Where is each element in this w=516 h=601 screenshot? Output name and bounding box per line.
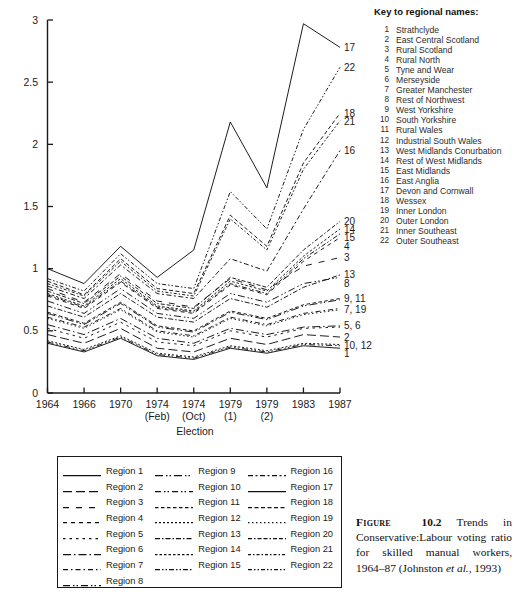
x-tick-label-year: 1987 xyxy=(316,398,364,410)
key-item-name: Wessex xyxy=(396,196,426,206)
legend-line-swatch xyxy=(247,545,287,554)
legend-line-swatch xyxy=(154,560,194,569)
chart-area: 00.511.522.53 1964196619701974(Feb)1974(… xyxy=(0,0,372,450)
key-item: 19Inner London xyxy=(372,206,516,216)
legend-item[interactable]: Region 21 xyxy=(247,541,339,557)
legend-line-swatch xyxy=(247,560,287,569)
key-item: 20Outer London xyxy=(372,216,516,226)
series-line xyxy=(48,322,341,346)
legend-item[interactable]: Region 2 xyxy=(62,479,154,495)
legend-item[interactable]: Region 17 xyxy=(247,479,339,495)
figure-10-2: 00.511.522.53 1964196619701974(Feb)1974(… xyxy=(0,0,516,601)
key-item-number: 10 xyxy=(372,115,396,125)
series-end-label: 1 xyxy=(344,348,350,359)
y-axis-tick-label: 0 xyxy=(4,387,38,399)
legend-line-swatch xyxy=(62,513,102,522)
key-panel-title: Key to regional names: xyxy=(374,6,516,17)
key-item: 2East Central Scotland xyxy=(372,35,516,45)
key-item: 5Tyne and Wear xyxy=(372,65,516,75)
key-item-name: Merseyside xyxy=(396,75,440,85)
key-item-name: East Anglia xyxy=(396,176,439,186)
key-item: 18Wessex xyxy=(372,196,516,206)
legend-item[interactable]: Region 7 xyxy=(62,557,154,573)
legend-item-label: Region 13 xyxy=(198,529,240,539)
legend-item-label: Region 7 xyxy=(106,560,143,570)
key-item-number: 15 xyxy=(372,166,396,176)
series-line xyxy=(48,338,341,359)
key-item-name: West Yorkshire xyxy=(396,105,453,115)
key-item: 16East Anglia xyxy=(372,176,516,186)
legend-item[interactable]: Region 11 xyxy=(154,494,246,510)
key-item-number: 4 xyxy=(372,55,396,65)
legend-item[interactable]: Region 20 xyxy=(247,526,339,542)
key-item-name: Industrial South Wales xyxy=(396,136,482,146)
legend-item[interactable]: Region 18 xyxy=(247,494,339,510)
series-line xyxy=(48,300,341,332)
key-item-number: 5 xyxy=(372,65,396,75)
key-item-number: 16 xyxy=(372,176,396,186)
legend-item[interactable]: Region 9 xyxy=(154,463,246,479)
y-axis-tick-label: 0.5 xyxy=(4,324,38,336)
series-end-label: 9, 11 xyxy=(344,293,366,304)
series-end-label: 17 xyxy=(344,42,355,53)
legend-item[interactable]: Region 1 xyxy=(62,463,154,479)
key-item-number: 13 xyxy=(372,146,396,156)
legend-item[interactable]: Region 5 xyxy=(62,526,154,542)
legend-column: Region 9Region 10Region 11Region 12Regio… xyxy=(154,463,246,589)
legend-line-swatch xyxy=(154,545,194,554)
legend-item[interactable]: Region 12 xyxy=(154,510,246,526)
legend-item-label: Region 21 xyxy=(291,544,333,554)
key-item-name: Outer Southeast xyxy=(396,236,459,246)
legend-item[interactable]: Region 6 xyxy=(62,541,154,557)
key-item: 6Merseyside xyxy=(372,75,516,85)
legend-item-label: Region 9 xyxy=(198,466,235,476)
legend-line-swatch xyxy=(62,466,102,475)
legend-line-swatch xyxy=(62,560,102,569)
key-item-name: West Midlands Conurbation xyxy=(396,146,501,156)
legend-item[interactable]: Region 14 xyxy=(154,541,246,557)
series-line xyxy=(48,328,341,352)
key-item-name: Rural Scotland xyxy=(396,45,452,55)
legend-item[interactable]: Region 16 xyxy=(247,463,339,479)
key-item-number: 8 xyxy=(372,95,396,105)
legend-column: Region 1Region 2Region 3Region 4Region 5… xyxy=(62,463,154,589)
key-item-number: 12 xyxy=(372,136,396,146)
key-item-number: 17 xyxy=(372,186,396,196)
legend-item[interactable]: Region 19 xyxy=(247,510,339,526)
legend-line-swatch xyxy=(62,482,102,491)
legend-item-label: Region 2 xyxy=(106,482,143,492)
key-item-number: 18 xyxy=(372,196,396,206)
legend-item[interactable]: Region 3 xyxy=(62,494,154,510)
legend-item[interactable]: Region 22 xyxy=(247,557,339,573)
legend-item[interactable]: Region 13 xyxy=(154,526,246,542)
x-axis-title: Election xyxy=(150,425,240,437)
key-item: 8Rest of Northwest xyxy=(372,95,516,105)
y-axis-tick-label: 1.5 xyxy=(4,200,38,212)
key-item: 1Strathclyde xyxy=(372,25,516,35)
legend-item[interactable]: Region 10 xyxy=(154,479,246,495)
key-item: 17Devon and Cornwall xyxy=(372,186,516,196)
series-end-label: 4 xyxy=(344,241,350,252)
caption-figure-word: Figure xyxy=(356,516,391,528)
key-item-number: 14 xyxy=(372,156,396,166)
legend-item[interactable]: Region 8 xyxy=(62,573,154,589)
legend-line-swatch xyxy=(62,545,102,554)
legend-item[interactable]: Region 4 xyxy=(62,510,154,526)
key-item-number: 22 xyxy=(372,236,396,246)
x-axis-tick-label: 1987 xyxy=(316,398,364,410)
legend-item[interactable]: Region 15 xyxy=(154,557,246,573)
legend-item-label: Region 16 xyxy=(291,466,333,476)
key-item: 10South Yorkshire xyxy=(372,115,516,125)
legend-line-swatch xyxy=(62,498,102,507)
key-item-name: Devon and Cornwall xyxy=(396,186,473,196)
key-item-number: 11 xyxy=(372,125,396,135)
legend-column: Region 16Region 17Region 18Region 19Regi… xyxy=(247,463,339,589)
key-item-name: Rest of Northwest xyxy=(396,95,464,105)
key-to-regional-names: Key to regional names: 1Strathclyde2East… xyxy=(372,6,516,246)
chart-axes xyxy=(48,20,341,393)
legend-item-label: Region 20 xyxy=(291,529,333,539)
legend-line-swatch xyxy=(62,529,102,538)
series-line xyxy=(48,24,341,284)
legend-line-swatch xyxy=(154,482,194,491)
legend-item-label: Region 5 xyxy=(106,529,143,539)
